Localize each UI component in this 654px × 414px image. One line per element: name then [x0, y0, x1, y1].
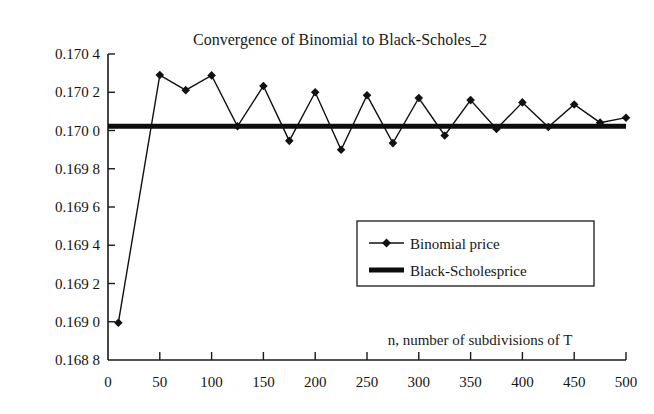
y-tick-label: 0.169 6 — [55, 199, 101, 215]
y-tick-label: 0.169 8 — [55, 161, 100, 177]
y-tick-label: 0.170 2 — [55, 84, 100, 100]
x-tick-label: 300 — [408, 374, 431, 390]
x-tick-label: 200 — [304, 374, 327, 390]
y-tick-label: 0.170 4 — [55, 46, 101, 62]
legend-label-binomial-price: Binomial price — [410, 236, 500, 252]
x-tick-label: 250 — [356, 374, 379, 390]
x-tick-label: 500 — [615, 374, 638, 390]
chart-container: Convergence of Binomial to Black-Scholes… — [0, 0, 654, 414]
chart-title: Convergence of Binomial to Black-Scholes… — [193, 31, 487, 49]
y-tick-label: 0.168 8 — [55, 352, 100, 368]
convergence-chart: Convergence of Binomial to Black-Scholes… — [0, 0, 654, 414]
legend: Binomial price Black-Scholesprice — [357, 221, 594, 286]
x-tick-label: 50 — [152, 374, 167, 390]
x-axis-title: n, number of subdivisions of T — [388, 332, 573, 348]
x-tick-label: 450 — [563, 374, 586, 390]
x-tick-label: 150 — [252, 374, 275, 390]
legend-label-black-scholes-price: Black-Scholesprice — [410, 263, 527, 279]
y-tick-label: 0.170 0 — [55, 123, 100, 139]
x-tick-label: 0 — [104, 374, 112, 390]
x-tick-label: 350 — [459, 374, 482, 390]
x-tick-label: 400 — [511, 374, 534, 390]
y-axis-tick-labels: 0.168 80.169 00.169 20.169 40.169 60.169… — [55, 46, 101, 368]
y-tick-label: 0.169 0 — [55, 314, 100, 330]
y-tick-label: 0.169 2 — [55, 276, 100, 292]
x-tick-label: 100 — [200, 374, 223, 390]
y-tick-label: 0.169 4 — [55, 237, 101, 253]
